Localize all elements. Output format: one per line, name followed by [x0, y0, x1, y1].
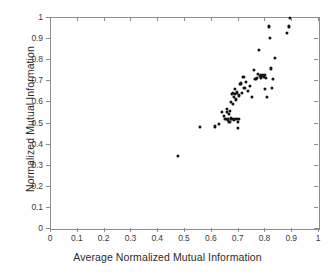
y-axis-tick-right [314, 123, 318, 124]
y-axis-tick [46, 186, 50, 187]
y-axis-tick-right [314, 80, 318, 81]
plot-area [50, 17, 320, 230]
data-point [241, 91, 244, 94]
data-point [246, 89, 249, 92]
y-axis-tick-label: 1 [38, 12, 43, 22]
data-point [252, 68, 255, 71]
y-axis-tick [46, 80, 50, 81]
x-axis-tick [157, 228, 158, 232]
x-axis-tick-top [104, 17, 105, 21]
data-point [248, 84, 251, 87]
x-axis-tick [104, 228, 105, 232]
x-axis-tick-top [184, 17, 185, 21]
x-axis-tick-label: 0.3 [125, 233, 137, 243]
x-axis-tick-label: 0.4 [151, 233, 163, 243]
x-axis-tick-top [211, 17, 212, 21]
data-point [177, 155, 180, 158]
data-point [271, 77, 274, 80]
data-point [250, 95, 253, 98]
data-point [228, 109, 231, 112]
y-axis-tick [46, 207, 50, 208]
data-point [237, 94, 240, 97]
x-axis-tick-label: 1 [316, 233, 321, 243]
data-point [257, 49, 260, 52]
y-axis-tick-right [314, 165, 318, 166]
data-point [227, 112, 230, 115]
x-axis-tick-top [264, 17, 265, 21]
x-axis-tick-label: 0.9 [285, 233, 297, 243]
x-axis-tick-top [77, 17, 78, 21]
x-axis-label: Average Normalized Mutual Information [0, 251, 335, 263]
x-axis-tick-label: 0.8 [259, 233, 271, 243]
data-point [268, 36, 271, 39]
data-point [245, 80, 248, 83]
y-axis-tick-right [314, 186, 318, 187]
y-axis-tick [46, 38, 50, 39]
y-axis-tick [46, 144, 50, 145]
data-point [238, 118, 241, 121]
x-axis-tick [211, 228, 212, 232]
y-axis-tick [46, 17, 50, 18]
x-axis-tick-top [50, 17, 51, 21]
data-point [221, 110, 224, 113]
data-point [237, 126, 240, 129]
x-axis-tick [318, 228, 319, 232]
data-point [265, 77, 268, 80]
x-axis-tick-top [157, 17, 158, 21]
x-axis-tick-label: 0.2 [98, 233, 110, 243]
data-point [273, 57, 276, 60]
y-axis-tick [46, 165, 50, 166]
x-axis-tick-label: 0.1 [71, 233, 83, 243]
y-axis-tick [46, 101, 50, 102]
x-axis-tick-label: 0 [48, 233, 53, 243]
data-point [240, 82, 243, 85]
scatter-chart-figure: 00.10.20.30.40.50.60.70.80.9100.10.20.30… [0, 0, 335, 280]
x-axis-tick-top [291, 17, 292, 21]
data-point [232, 102, 235, 105]
x-axis-tick-top [130, 17, 131, 21]
x-axis-tick-label: 0.6 [205, 233, 217, 243]
data-point [270, 86, 273, 89]
data-point [217, 123, 220, 126]
x-axis-tick-top [238, 17, 239, 21]
y-axis-tick-label: 0 [38, 223, 43, 233]
data-point [213, 125, 216, 128]
data-point [234, 98, 237, 101]
y-axis-tick [46, 59, 50, 60]
x-axis-tick-label: 0.5 [178, 233, 190, 243]
data-point [242, 75, 245, 78]
x-axis-tick-label: 0.7 [232, 233, 244, 243]
data-point [286, 32, 289, 35]
y-axis-tick-right [314, 207, 318, 208]
data-point [287, 25, 290, 28]
x-axis-tick [184, 228, 185, 232]
data-point [267, 25, 270, 28]
data-point [269, 67, 272, 70]
y-axis-tick-right [314, 228, 318, 229]
x-axis-tick [264, 228, 265, 232]
y-axis-tick [46, 123, 50, 124]
x-axis-tick [238, 228, 239, 232]
y-axis-tick [46, 228, 50, 229]
y-axis-tick-right [314, 144, 318, 145]
data-point [266, 95, 269, 98]
x-axis-tick [50, 228, 51, 232]
data-point [228, 120, 231, 123]
y-axis-tick-right [314, 59, 318, 60]
data-points-layer [51, 18, 319, 229]
y-axis-tick-right [314, 101, 318, 102]
y-axis-label: Normalized Mutual Information [24, 9, 36, 229]
x-axis-tick [291, 228, 292, 232]
x-axis-tick-top [318, 17, 319, 21]
x-axis-tick [130, 228, 131, 232]
data-point [263, 87, 266, 90]
x-axis-tick [77, 228, 78, 232]
y-axis-tick-right [314, 17, 318, 18]
data-point [198, 126, 201, 129]
y-axis-tick-right [314, 38, 318, 39]
